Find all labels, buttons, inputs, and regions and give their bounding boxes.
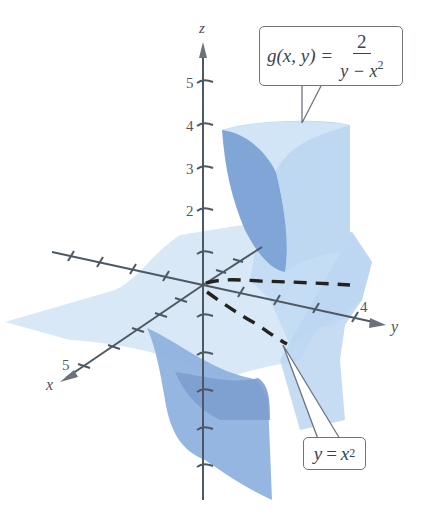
function-label-callout: g(x, y) = 2 y − x2 — [259, 26, 403, 86]
denominator-text: y − x — [340, 61, 377, 81]
y-axis-label: y — [389, 318, 399, 336]
z-tick-2: 2 — [186, 203, 194, 219]
function-lhs: g(x, y) — [267, 45, 316, 67]
fraction: 2 y − x2 — [338, 31, 385, 82]
y-axis-arrow — [369, 318, 386, 328]
curve-exponent: 2 — [349, 446, 355, 461]
x-tick-5: 5 — [62, 357, 70, 373]
z-tick-5: 5 — [186, 75, 194, 91]
curve-label-callout: y = x2 — [303, 437, 366, 470]
z-tick-3: 3 — [186, 161, 194, 177]
y-tick-4: 4 — [360, 299, 368, 315]
curve-equals: = — [326, 443, 337, 465]
fraction-denominator: y − x2 — [338, 54, 385, 82]
z-axis-label: z — [198, 20, 205, 36]
equals-sign: = — [322, 45, 333, 67]
x-axis-label: x — [45, 376, 53, 393]
curve-lhs: y — [314, 443, 322, 465]
z-axis-arrow — [199, 42, 207, 58]
denominator-exponent: 2 — [377, 58, 383, 72]
curve-rhs: x — [341, 443, 349, 465]
z-tick-4: 4 — [186, 118, 194, 134]
fraction-numerator: 2 — [353, 31, 371, 54]
